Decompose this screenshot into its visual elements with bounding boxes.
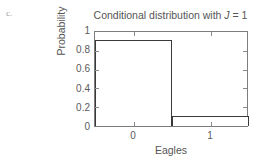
y-tick-label: 0.2	[50, 103, 90, 113]
y-tick-mark	[95, 107, 99, 108]
x-tick-mark	[211, 32, 212, 36]
x-tick-label: 1	[190, 131, 230, 141]
x-tick-mark	[134, 32, 135, 36]
y-tick-mark	[243, 107, 247, 108]
chart-title: Conditional distribution with J = 1	[0, 9, 261, 22]
x-tick-mark	[134, 122, 135, 126]
y-axis-title: Probability	[56, 0, 67, 79]
y-tick-mark	[95, 70, 99, 71]
chart-title-prefix: Conditional distribution with	[94, 9, 225, 21]
chart-figure: ggggg c. Conditional distribution with J…	[0, 0, 261, 161]
y-tick-label: 0.4	[50, 84, 90, 94]
plot-area	[94, 31, 248, 127]
y-tick-mark	[243, 51, 247, 52]
y-tick-mark	[243, 88, 247, 89]
chart-title-suffix: = 1	[230, 9, 248, 21]
x-tick-mark	[211, 122, 212, 126]
bar-eagles-0	[95, 40, 172, 126]
x-axis-title: Eagles	[94, 144, 248, 156]
y-tick-mark	[95, 88, 99, 89]
y-tick-mark	[95, 51, 99, 52]
y-tick-label: 0	[50, 122, 90, 132]
x-tick-label: 0	[113, 131, 153, 141]
y-tick-mark	[243, 70, 247, 71]
